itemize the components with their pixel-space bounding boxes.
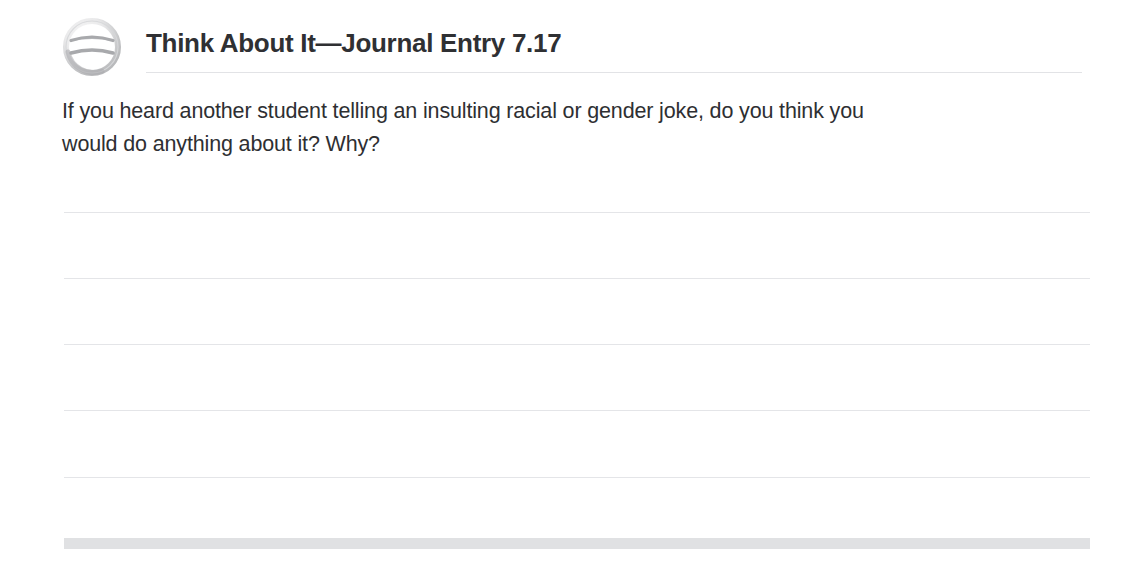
page-title: Think About It—Journal Entry 7.17 <box>146 27 561 59</box>
writing-line-5 <box>64 477 1090 478</box>
journal-entry-page: Think About It—Journal Entry 7.17 If you… <box>0 0 1133 572</box>
journal-entry-icon <box>62 18 122 76</box>
page-header: Think About It—Journal Entry 7.17 <box>0 0 1133 86</box>
footer-band <box>64 538 1090 549</box>
writing-line-1 <box>64 212 1090 213</box>
journal-prompt-text: If you heard another student telling an … <box>62 95 1072 161</box>
writing-line-4 <box>64 410 1090 411</box>
writing-line-2 <box>64 278 1090 279</box>
writing-line-3 <box>64 344 1090 345</box>
header-divider <box>146 72 1082 73</box>
prompt-line-2: would do anything about it? Why? <box>62 128 1072 161</box>
prompt-line-1: If you heard another student telling an … <box>62 95 1072 128</box>
